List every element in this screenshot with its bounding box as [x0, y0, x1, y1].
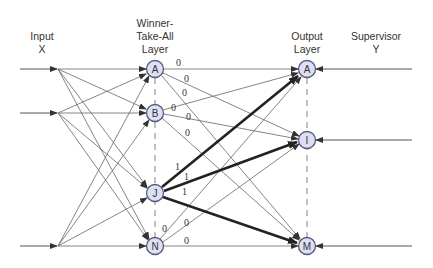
wta-node-n: N	[147, 238, 164, 255]
svg-text:0: 0	[162, 223, 167, 234]
input-arrows	[20, 69, 57, 246]
svg-text:1: 1	[184, 171, 189, 182]
svg-text:0: 0	[171, 102, 176, 113]
weight-labels: 0 0 0 0 0 0 1 1 1 0 0 0	[162, 57, 191, 246]
svg-text:A: A	[152, 64, 159, 75]
svg-text:A: A	[304, 64, 311, 75]
input-to-wta-edges	[58, 69, 149, 246]
network-diagram: 0 0 0 0 0 0 1 1 1 0 0 0 A B J N A I M	[0, 0, 433, 268]
svg-text:0: 0	[186, 111, 191, 122]
wta-node-a: A	[147, 61, 164, 78]
svg-text:0: 0	[184, 235, 189, 246]
output-node-a: A	[299, 61, 316, 78]
svg-text:N: N	[151, 241, 158, 252]
svg-text:J: J	[153, 188, 158, 199]
svg-text:0: 0	[184, 73, 189, 84]
wta-node-j: J	[147, 185, 164, 202]
svg-text:1: 1	[182, 186, 187, 197]
svg-text:0: 0	[176, 57, 181, 68]
svg-text:0: 0	[184, 217, 189, 228]
wta-node-b: B	[147, 105, 164, 122]
svg-text:0: 0	[182, 87, 187, 98]
svg-text:1: 1	[175, 161, 180, 172]
svg-text:B: B	[152, 108, 159, 119]
svg-text:0: 0	[185, 127, 190, 138]
output-node-m: M	[299, 238, 316, 255]
output-node-i: I	[299, 132, 316, 149]
svg-text:M: M	[303, 241, 311, 252]
supervisor-arrows	[316, 69, 412, 246]
svg-text:I: I	[306, 135, 309, 146]
